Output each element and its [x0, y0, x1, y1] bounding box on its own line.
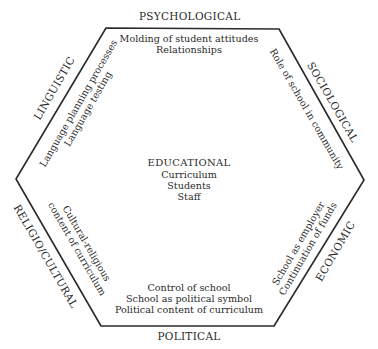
psychological-items: Molding of student attitudes Relationshi… [114, 33, 264, 55]
political-item: Control of school [109, 282, 269, 293]
center-block: EDUCATIONAL Curriculum Students Staff [139, 157, 239, 202]
label-psychological: PSYCHOLOGICAL [139, 10, 239, 22]
political-items: Control of school School as political sy… [109, 282, 269, 315]
center-item: Staff [139, 191, 239, 202]
center-item: Curriculum [139, 169, 239, 180]
political-item: School as political symbol [109, 293, 269, 304]
political-item: Political content of curriculum [109, 304, 269, 315]
center-title: EDUCATIONAL [139, 157, 239, 169]
psychological-item: Relationships [114, 44, 264, 55]
psychological-item: Molding of student attitudes [114, 33, 264, 44]
label-political: POLITICAL [139, 330, 239, 342]
center-item: Students [139, 180, 239, 191]
